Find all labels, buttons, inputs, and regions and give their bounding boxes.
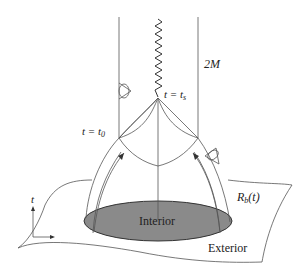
t0-slice-curve [119, 138, 198, 166]
boundary-label: Rb(t) [236, 190, 260, 205]
arrow-left-head [118, 153, 124, 160]
null-line-right-1 [158, 98, 198, 138]
singularity-time-label: t = ts [164, 88, 186, 102]
time-axis-label: t [31, 193, 35, 205]
exterior-label: Exterior [208, 241, 247, 255]
interior-label: Interior [139, 214, 175, 228]
light-cone-right-icon [205, 148, 220, 164]
null-line-left-2 [119, 98, 158, 138]
singularity-zigzag [155, 19, 162, 97]
spacetime-diagram: 2M t = ts t = t0 Rb(t) Interior Exterior… [0, 0, 307, 278]
light-cone-left-icon [119, 83, 131, 99]
horizon-label: 2M [204, 57, 221, 71]
initial-time-label: t = t0 [82, 125, 105, 139]
